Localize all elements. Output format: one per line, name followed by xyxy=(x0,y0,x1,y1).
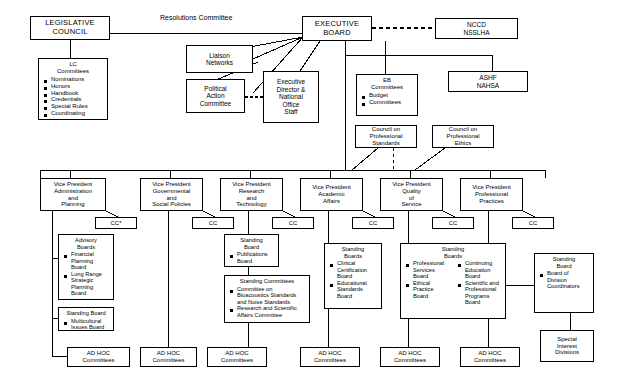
liaison-networks-label: Liaison Networks xyxy=(206,52,233,67)
list-item: Coordinating xyxy=(43,110,105,117)
node-cc-1[interactable]: CC* xyxy=(95,217,137,229)
vp-academic-label: Vice President Academic Affairs xyxy=(312,184,351,205)
node-ad-hoc-4[interactable]: AD HOC Committees xyxy=(300,347,360,367)
node-ad-hoc-1[interactable]: AD HOC Committees xyxy=(67,347,130,367)
node-standing-board-multicultural[interactable]: Standing Board Multicultural Issues Boar… xyxy=(58,307,114,331)
ashf-nahsa-label: ASHF NAHSA xyxy=(477,74,499,89)
council-professional-ethics-label: Council on Professional Ethics xyxy=(446,126,479,147)
ad-hoc-1-label: AD HOC Committees xyxy=(82,350,114,364)
node-advisory-boards[interactable]: Advisory Boards Financial Planning Board… xyxy=(58,234,114,300)
list-item: Multicultural Issues Board xyxy=(63,318,111,331)
list-item: Clinical Certification Board xyxy=(329,260,379,280)
standing-boards-quality-header: Standing Boards xyxy=(403,246,503,259)
vp-governmental-label: Vice President Governmental and Social P… xyxy=(152,181,191,209)
node-vp-professional[interactable]: Vice President Professional Practices xyxy=(460,178,523,211)
cc-2-label: CC xyxy=(209,220,218,227)
standing-boards-academic-header: Standing Boards xyxy=(327,246,379,259)
node-cc-6[interactable]: CC xyxy=(512,217,554,229)
executive-board-label: EXECUTIVE BOARD xyxy=(315,20,359,37)
list-item: Committee on Bioacoustics Standards and … xyxy=(229,286,307,306)
nccd-nsslha-label: NCCD NSSLHA xyxy=(463,21,489,36)
executive-director-label: Executive Director & National Office Sta… xyxy=(277,78,306,115)
node-council-professional-standards[interactable]: Council on Professional Standards xyxy=(355,125,417,148)
eb-committees-header: EB Committees xyxy=(359,77,415,91)
standing-committees-research-header: Standing Committees xyxy=(227,278,307,285)
ad-hoc-5-label: AD HOC Committees xyxy=(394,350,426,364)
list-item: Long Range Strategic Planning Board xyxy=(63,271,111,297)
lc-committees-list: Nominations Honors Handbook Credentials … xyxy=(41,76,105,117)
cc-6-label: CC xyxy=(529,220,538,227)
node-ad-hoc-5[interactable]: AD HOC Committees xyxy=(380,347,440,367)
node-cc-3[interactable]: CC xyxy=(272,217,314,229)
list-item: Publications Board xyxy=(229,251,276,264)
standing-board-publications-list: Publications Board xyxy=(227,251,276,264)
list-item: Ethical Practice Board xyxy=(405,280,451,300)
council-professional-standards-label: Council on Professional Standards xyxy=(369,126,402,147)
list-item: Professional Services Board xyxy=(405,260,451,280)
legislative-council-label: LEGISLATIVE COUNCIL xyxy=(45,19,95,36)
list-item: Budget xyxy=(361,92,415,99)
edge-label-resolutions-committee: Resolutions Committee xyxy=(160,14,232,21)
node-standing-committees-research[interactable]: Standing Committees Committee on Bioacou… xyxy=(224,275,310,323)
node-ad-hoc-3[interactable]: AD HOC Committees xyxy=(207,347,267,367)
list-item: Committees xyxy=(361,99,415,106)
ad-hoc-4-label: AD HOC Committees xyxy=(314,350,346,364)
list-item: Scientific and Professional Programs Boa… xyxy=(457,280,503,306)
standing-board-division-header: Standing Board xyxy=(537,256,591,269)
node-vp-quality[interactable]: Vice President Quality of Service xyxy=(380,178,443,211)
cc-1-label: CC* xyxy=(110,220,121,227)
list-item: Handbook xyxy=(43,90,105,97)
node-vp-governmental[interactable]: Vice President Governmental and Social P… xyxy=(140,178,203,211)
list-item: Honors xyxy=(43,83,105,90)
node-nccd-nsslha[interactable]: NCCD NSSLHA xyxy=(435,18,518,39)
standing-boards-quality-left: Professional Services Board Ethical Prac… xyxy=(403,260,451,306)
node-ashf-nahsa[interactable]: ASHF NAHSA xyxy=(448,71,528,92)
cc-5-label: CC xyxy=(449,220,458,227)
node-ad-hoc-6[interactable]: AD HOC Committees xyxy=(460,347,520,367)
node-eb-committees[interactable]: EB Committees Budget Committees xyxy=(356,74,418,116)
list-item: Continuing Education Board xyxy=(457,260,503,280)
cc-4-label: CC xyxy=(369,220,378,227)
standing-board-multicultural-header: Standing Board xyxy=(61,310,111,317)
node-standing-boards-academic[interactable]: Standing Boards Clinical Certification B… xyxy=(324,243,382,309)
ad-hoc-6-label: AD HOC Committees xyxy=(474,350,506,364)
node-lc-committees[interactable]: LC Committees Nominations Honors Handboo… xyxy=(38,58,108,120)
node-standing-board-publications[interactable]: Standing Board Publications Board xyxy=(224,234,279,267)
node-vp-research[interactable]: Vice President Research and Technology xyxy=(220,178,283,211)
node-ad-hoc-2[interactable]: AD HOC Committees xyxy=(140,347,197,367)
node-legislative-council[interactable]: LEGISLATIVE COUNCIL xyxy=(30,16,110,40)
node-vp-academic[interactable]: Vice President Academic Affairs xyxy=(300,178,363,211)
vp-quality-label: Vice President Quality of Service xyxy=(392,181,431,209)
political-action-committee-label: Political Action Committee xyxy=(200,85,231,107)
list-item: Special Rules xyxy=(43,103,105,110)
node-executive-board[interactable]: EXECUTIVE BOARD xyxy=(302,16,372,41)
node-cc-4[interactable]: CC xyxy=(352,217,394,229)
ad-hoc-3-label: AD HOC Committees xyxy=(221,350,253,364)
standing-board-division-list: Board of Division Coordinators xyxy=(537,270,591,290)
node-council-professional-ethics[interactable]: Council on Professional Ethics xyxy=(432,125,494,148)
standing-boards-quality-right: Continuing Education Board Scientific an… xyxy=(455,260,503,306)
list-item: Financial Planning Board xyxy=(63,251,111,271)
special-interest-divisions-label: Special Interest Divisions xyxy=(555,336,579,357)
standing-boards-academic-list: Clinical Certification Board Educational… xyxy=(327,260,379,299)
standing-board-publications-header: Standing Board xyxy=(227,237,276,250)
vp-administration-label: Vice President Administration and Planni… xyxy=(54,181,93,209)
node-standing-board-division[interactable]: Standing Board Board of Division Coordin… xyxy=(534,253,594,313)
standing-boards-quality-columns: Professional Services Board Ethical Prac… xyxy=(403,260,503,306)
node-cc-2[interactable]: CC xyxy=(192,217,234,229)
vp-professional-label: Vice President Professional Practices xyxy=(472,184,511,205)
list-item: Board of Division Coordinators xyxy=(539,270,591,290)
standing-committees-research-list: Committee on Bioacoustics Standards and … xyxy=(227,286,307,319)
standing-board-multicultural-list: Multicultural Issues Board xyxy=(61,318,111,331)
node-standing-boards-quality[interactable]: Standing Boards Professional Services Bo… xyxy=(400,243,506,319)
node-executive-director[interactable]: Executive Director & National Office Sta… xyxy=(263,71,319,123)
list-item: Nominations xyxy=(43,76,105,83)
node-cc-5[interactable]: CC xyxy=(432,217,474,229)
node-political-action-committee[interactable]: Political Action Committee xyxy=(186,79,245,113)
ad-hoc-2-label: AD HOC Committees xyxy=(152,350,184,364)
node-special-interest-divisions[interactable]: Special Interest Divisions xyxy=(540,330,594,362)
advisory-boards-header: Advisory Boards xyxy=(61,237,111,250)
node-vp-administration[interactable]: Vice President Administration and Planni… xyxy=(40,178,106,211)
org-chart: LEGISLATIVE COUNCIL Resolutions Committe… xyxy=(0,0,619,387)
node-liaison-networks[interactable]: Liaison Networks xyxy=(186,45,253,73)
